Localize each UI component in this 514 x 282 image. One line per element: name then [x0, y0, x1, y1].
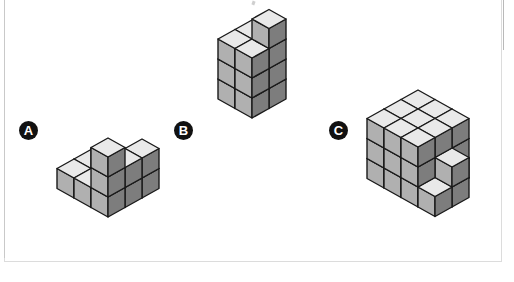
cube-face-left — [367, 159, 384, 189]
cube-face-top — [418, 178, 452, 197]
cube-face-right — [418, 178, 435, 208]
cube-face-top — [401, 168, 435, 187]
cube-face-right — [384, 119, 401, 149]
cube-face-top — [401, 148, 435, 167]
cube-face-top — [367, 149, 401, 168]
cube-face-right — [452, 159, 469, 189]
cube-face-right — [108, 150, 125, 180]
cube-face-top — [252, 50, 286, 69]
cube-face-top — [418, 119, 452, 138]
cube-face-left — [418, 128, 435, 158]
cube-face-left — [235, 70, 252, 100]
cube-face-left — [401, 178, 418, 208]
cube-face-top — [418, 159, 452, 178]
cube-face-left — [435, 178, 452, 208]
cube-face-top — [91, 140, 125, 159]
cube-face-top — [108, 149, 142, 168]
cube-face-left — [235, 69, 252, 99]
cube-face-left — [108, 158, 125, 188]
cube-face-left — [401, 119, 418, 149]
cube-face-left — [235, 50, 252, 80]
cube-face-right — [108, 168, 125, 198]
cube-face-right — [91, 178, 108, 208]
cube-face-right — [452, 119, 469, 149]
figure-frame — [4, 0, 502, 262]
structure-label-c: C — [329, 121, 348, 140]
cube-face-right — [418, 100, 435, 130]
cube-face-right — [401, 168, 418, 198]
cube-face-right — [252, 30, 269, 60]
cube-face-right — [252, 50, 269, 80]
cube-face-left — [418, 168, 435, 198]
cube-face-left — [401, 159, 418, 189]
cube-face-left — [367, 139, 384, 169]
cube-face-right — [269, 39, 286, 69]
cube-face-top — [401, 130, 435, 149]
cube-face-top — [418, 140, 452, 159]
cube-face-left — [401, 140, 418, 170]
cube-face-top — [91, 159, 125, 178]
cube-face-left — [401, 158, 418, 188]
cube-face-right — [418, 119, 435, 149]
structure-label-b: B — [174, 121, 193, 140]
cube-face-left — [252, 19, 269, 49]
cube-face-right — [384, 159, 401, 189]
cube-face-right — [235, 79, 252, 109]
cube-face-top — [384, 159, 418, 178]
cube-face-right — [435, 149, 452, 179]
cube-face-right — [384, 139, 401, 169]
structure-a — [57, 138, 159, 217]
cube-face-top — [418, 139, 452, 158]
cube-face-top — [435, 168, 469, 187]
cube-face-top — [384, 139, 418, 158]
cube-face-left — [91, 149, 108, 179]
cube-face-right — [269, 79, 286, 109]
cube-face-right — [401, 149, 418, 179]
cube-face-right — [418, 139, 435, 169]
cube-face-left — [218, 79, 235, 109]
cube-face-top — [235, 20, 269, 39]
cube-face-right — [418, 140, 435, 170]
cube-face-left — [108, 178, 125, 208]
cube-face-left — [435, 139, 452, 169]
cube-face-right — [252, 69, 269, 99]
cube-face-right — [142, 169, 159, 199]
cube-face-left — [401, 138, 418, 168]
cube-face-top — [384, 119, 418, 138]
right-rule — [503, 0, 504, 50]
cube-face-top — [435, 129, 469, 148]
cube-face-right — [418, 138, 435, 168]
cube-face-left — [125, 169, 142, 199]
cube-face-top — [401, 149, 435, 168]
cube-face-left — [125, 149, 142, 179]
cube-face-right — [125, 158, 142, 188]
cube-face-top — [57, 159, 91, 178]
cube-face-right — [401, 109, 418, 139]
cube-face-top — [384, 120, 418, 139]
cube-face-top — [235, 40, 269, 59]
cube-face-left — [435, 159, 452, 189]
cube-face-right — [435, 109, 452, 139]
cube-face-right — [108, 188, 125, 218]
cube-face-right — [401, 148, 418, 178]
cube-face-top — [435, 109, 469, 128]
cube-face-right — [435, 187, 452, 217]
cube-face-top — [218, 30, 252, 49]
cube-face-left — [418, 187, 435, 217]
cube-face-left — [91, 188, 108, 218]
cube-face-top — [401, 109, 435, 128]
structure-b — [218, 10, 286, 119]
cube-face-top — [108, 169, 142, 188]
structure-label-a: A — [19, 121, 38, 140]
cube-face-top — [235, 79, 269, 98]
cube-face-top — [218, 50, 252, 69]
cube-face-top — [418, 120, 452, 139]
cube-face-right — [252, 89, 269, 119]
cube-face-right — [452, 178, 469, 208]
cube-face-left — [401, 139, 418, 169]
cube-face-left — [252, 79, 269, 109]
cube-face-right — [108, 149, 125, 179]
cube-face-left — [384, 128, 401, 158]
cube-face-left — [91, 150, 108, 180]
cube-face-top — [218, 70, 252, 89]
